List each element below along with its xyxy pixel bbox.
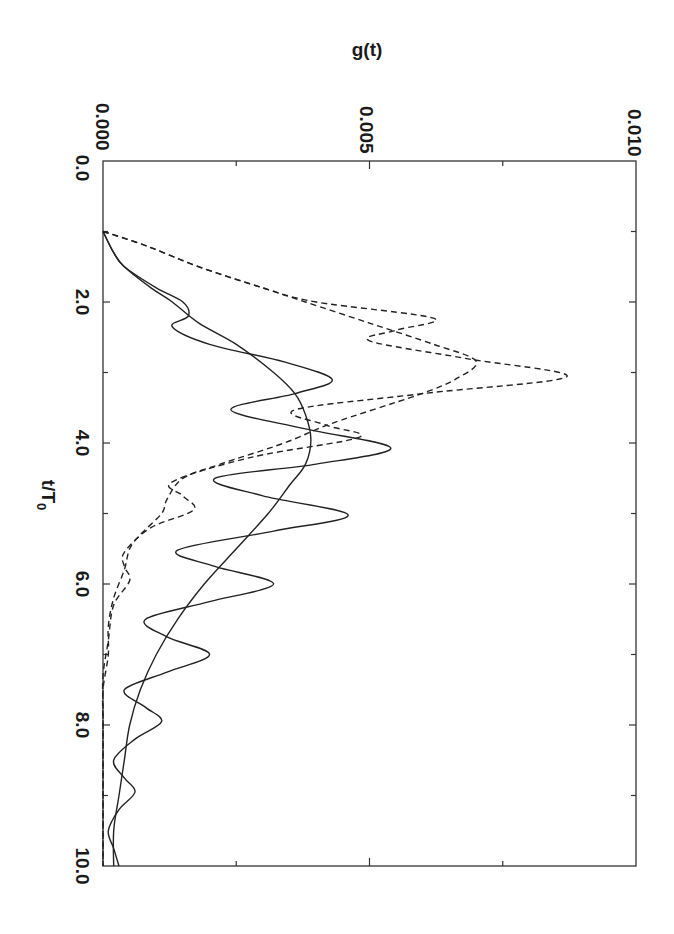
x-tick-label-5: 10.0	[72, 848, 93, 885]
x-tick-label-3: 6.0	[72, 571, 93, 597]
y-tick-label-1: 0.005	[356, 106, 377, 154]
x-tick-label-2: 4.0	[72, 430, 93, 456]
y-tick-label-2: 0.010	[624, 109, 645, 157]
y-tick-label-0: 0.000	[92, 103, 113, 151]
y-axis-label: g(t)	[352, 39, 383, 60]
rotated-line-chart: g(t) 0.000 0.005 0.010 0.0 2.0 4.0 6.0 8…	[0, 0, 674, 934]
x-tick-label-0: 0.0	[72, 155, 93, 181]
x-tick-label-4: 8.0	[72, 712, 93, 738]
x-tick-label-1: 2.0	[72, 289, 93, 315]
